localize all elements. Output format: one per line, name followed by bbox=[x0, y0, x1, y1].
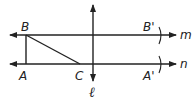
geometry-diagram: B A C B' A' m n ℓ bbox=[0, 0, 196, 102]
label-a: A bbox=[18, 69, 27, 83]
label-b: B bbox=[21, 20, 29, 34]
label-b-prime: B' bbox=[143, 20, 155, 34]
label-n: n bbox=[180, 57, 188, 71]
label-a-prime: A' bbox=[142, 69, 155, 83]
segment-bc bbox=[26, 35, 80, 64]
label-c: C bbox=[75, 69, 84, 83]
label-m: m bbox=[180, 28, 192, 42]
label-l: ℓ bbox=[89, 84, 95, 100]
